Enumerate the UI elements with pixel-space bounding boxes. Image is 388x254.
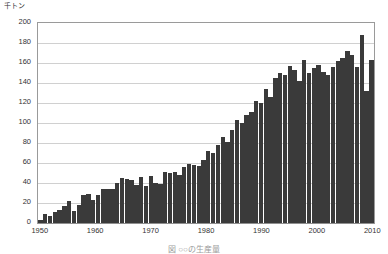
y-axis-tick-label: 20 [23, 198, 31, 206]
bar-2001 [283, 75, 287, 223]
bar-1997 [264, 89, 268, 223]
bar-1981 [187, 164, 191, 223]
bar-undefined [336, 61, 340, 223]
bar-undefined [360, 35, 364, 223]
bar-1968 [125, 179, 129, 223]
y-axis-tick-label: 60 [23, 158, 31, 166]
bar-1961 [91, 200, 95, 223]
bar-1965 [110, 189, 114, 223]
bar-1958 [77, 205, 81, 223]
bar-undefined [355, 67, 359, 223]
bar-2002 [288, 66, 292, 223]
bar-1967 [120, 178, 124, 223]
bar-undefined [350, 55, 354, 223]
x-axis-tick-label: 2000 [308, 226, 325, 235]
bar-undefined [364, 91, 368, 223]
bar-1973 [149, 176, 153, 223]
bar-1959 [81, 195, 85, 223]
bar-1992 [240, 123, 244, 223]
bar-1985 [206, 151, 210, 223]
bar-1954 [57, 210, 61, 223]
bar-1975 [158, 184, 162, 223]
x-axis-tick-label: 1970 [142, 226, 159, 235]
bar-2000 [278, 73, 282, 223]
y-axis-tick-label: 80 [23, 138, 31, 146]
bar-1983 [197, 166, 201, 223]
bar-1963 [101, 189, 105, 223]
bar-2010 [326, 75, 330, 223]
bar-undefined [331, 67, 335, 223]
x-axis-tick-label: 2010 [364, 226, 381, 235]
bar-1993 [244, 115, 248, 223]
bar-1955 [62, 206, 66, 223]
y-axis-tick-label: 0 [27, 218, 31, 226]
y-axis-tick-label: 180 [18, 38, 31, 46]
bar-1999 [273, 78, 277, 223]
figure-container: 千トン 020406080100120140160180200 19501960… [0, 0, 388, 254]
figure-caption: 図 ○○の生産量 [0, 245, 388, 254]
bar-1978 [173, 172, 177, 223]
x-axis-tick-label: 1960 [87, 226, 104, 235]
bar-2006 [307, 73, 311, 223]
bar-1987 [216, 145, 220, 223]
bar-1964 [105, 189, 109, 223]
bar-1996 [259, 103, 263, 223]
bar-1988 [221, 137, 225, 223]
x-axis-tick-label: 1990 [253, 226, 270, 235]
bar-series [38, 23, 374, 223]
bar-1951 [43, 214, 47, 223]
bar-2009 [321, 72, 325, 223]
bar-1962 [96, 195, 100, 223]
bar-1970 [134, 185, 138, 223]
bar-undefined [345, 51, 349, 223]
bar-2007 [312, 68, 316, 223]
bar-1980 [182, 167, 186, 223]
bar-1956 [67, 201, 71, 223]
bar-1974 [153, 183, 157, 223]
bar-1971 [139, 177, 143, 223]
y-axis-tick-label: 120 [18, 98, 31, 106]
y-axis-tick-label: 40 [23, 178, 31, 186]
x-axis: 1950196019701980199020002010 [37, 226, 375, 238]
x-axis-tick-label: 1950 [31, 226, 48, 235]
bar-1984 [201, 160, 205, 223]
bar-2004 [297, 81, 301, 223]
bar-1953 [53, 212, 57, 223]
bar-1995 [254, 101, 258, 223]
bar-1952 [48, 216, 52, 223]
bar-1989 [225, 142, 229, 223]
bar-1957 [72, 211, 76, 223]
y-axis-tick-label: 140 [18, 78, 31, 86]
bar-1979 [177, 175, 181, 223]
bar-1972 [144, 186, 148, 223]
bar-1976 [163, 172, 167, 223]
bar-1994 [249, 112, 253, 223]
bar-undefined [369, 60, 373, 223]
bar-1966 [115, 183, 119, 223]
bar-2008 [316, 65, 320, 223]
bar-1960 [86, 194, 90, 223]
bar-1990 [230, 130, 234, 223]
bar-1982 [192, 165, 196, 223]
bar-1986 [211, 153, 215, 223]
y-axis-tick-label: 160 [18, 58, 31, 66]
x-axis-tick-label: 1980 [198, 226, 215, 235]
y-axis-tick-label: 100 [18, 118, 31, 126]
bar-1991 [235, 120, 239, 223]
y-axis-unit-label: 千トン [4, 2, 25, 10]
bar-1969 [129, 180, 133, 223]
bar-1998 [268, 97, 272, 223]
bar-undefined [340, 58, 344, 223]
bar-1977 [168, 173, 172, 223]
bar-2005 [302, 60, 306, 223]
bar-1950 [38, 220, 42, 223]
y-axis-tick-label: 200 [18, 18, 31, 26]
gridline-0 [38, 223, 374, 224]
bar-2003 [292, 70, 296, 223]
y-axis: 020406080100120140160180200 [0, 22, 35, 224]
